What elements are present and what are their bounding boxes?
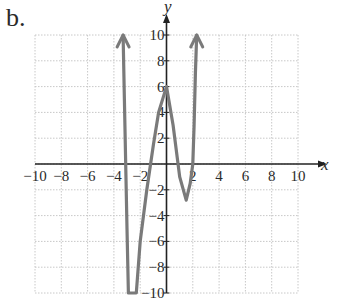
y-tick-label: −8 <box>149 259 165 275</box>
y-tick-label: −6 <box>149 233 165 249</box>
y-tick-label: 2 <box>157 130 165 146</box>
y-tick-label: −2 <box>149 182 165 198</box>
x-tick-label: −10 <box>23 168 46 184</box>
x-tick-label: 6 <box>242 168 250 184</box>
x-tick-label: 8 <box>268 168 276 184</box>
y-axis-label: y <box>162 0 172 16</box>
x-axis-label: x <box>320 155 329 174</box>
y-tick-label: 10 <box>150 27 165 43</box>
x-tick-label: −2 <box>132 168 148 184</box>
y-tick-label: −10 <box>141 285 164 301</box>
graph: −10−8−6−4−2246810108642−2−4−6−8−10 b. x … <box>0 0 338 307</box>
figure-label: b. <box>6 3 26 32</box>
y-tick-label: −4 <box>149 208 165 224</box>
y-tick-label: 8 <box>157 53 165 69</box>
x-tick-label: 4 <box>215 168 223 184</box>
x-tick-label: 10 <box>291 168 306 184</box>
x-tick-label: −4 <box>106 168 122 184</box>
x-tick-label: −8 <box>53 168 69 184</box>
x-tick-label: −6 <box>80 168 96 184</box>
axes <box>35 14 327 293</box>
